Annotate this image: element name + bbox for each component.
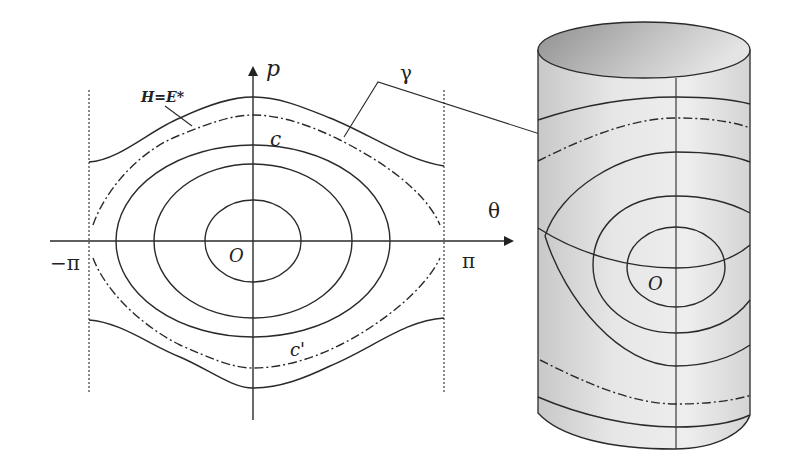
cylinder-body	[538, 50, 750, 449]
cylinder	[538, 22, 752, 449]
figure: p θ O −π π H=E* c c' γ	[0, 0, 792, 474]
pi-label: π	[462, 249, 475, 273]
separatrix-label: H=E*	[140, 89, 185, 105]
cylinder-top	[538, 22, 750, 78]
curve-c-prime-label: c'	[290, 339, 305, 360]
gamma-label: γ	[400, 61, 412, 85]
c-prime-curve	[93, 258, 440, 368]
phase-plane	[50, 68, 568, 420]
origin-label: O	[229, 245, 244, 266]
curve-c-label: c	[270, 127, 281, 151]
separatrix-lower	[89, 318, 444, 388]
gamma-leader-line	[344, 82, 568, 143]
theta-axis-label: θ	[488, 199, 500, 223]
p-axis-label: p	[266, 56, 280, 81]
cylinder-origin-label: O	[648, 273, 663, 294]
gamma-curve-upper	[93, 115, 440, 225]
minus-pi-label: −π	[50, 251, 80, 275]
separatrix-upper	[89, 97, 444, 166]
